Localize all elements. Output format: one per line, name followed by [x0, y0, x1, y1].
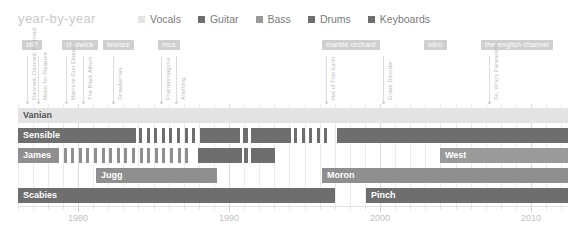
record-label-badge[interactable]: chiswick: [62, 40, 98, 50]
member-name-label: Jugg: [96, 168, 128, 183]
axis-tick: [154, 206, 155, 209]
record-label-badge[interactable]: mca: [158, 40, 180, 50]
timeline-bar-segment: [177, 128, 180, 143]
timeline-bar-segment: [154, 128, 157, 143]
record-label-badge[interactable]: marble orchard: [322, 40, 380, 50]
axis-tick: [138, 206, 139, 209]
legend-label: Keyboards: [380, 13, 430, 25]
annotation-layer: stiffchiswickbronzemcamarble orchardnitr…: [0, 40, 583, 106]
timeline-bar-segment: [317, 128, 320, 143]
member-name-label: James: [18, 148, 56, 163]
member-name-label: Sensible: [18, 128, 65, 143]
axis-tick: [501, 206, 502, 209]
axis-tick: [440, 206, 441, 209]
legend-label: Drums: [320, 13, 351, 25]
axis-tick: [486, 206, 487, 209]
album-title-label: The Black Album: [87, 57, 93, 100]
table-row[interactable]: Sensible: [0, 128, 583, 143]
axis-tick: [33, 206, 34, 209]
axis-tick: [274, 206, 275, 209]
axis-tick: [335, 206, 336, 209]
axis-tick-label: 1990: [219, 213, 239, 223]
plot-area: VanianSensibleJamesJuggMoronWestScabiesP…: [0, 104, 583, 208]
axis-tick: [471, 206, 472, 209]
x-axis: 1980199020002010: [0, 206, 583, 230]
axis-tick: [546, 206, 547, 209]
record-label-badge[interactable]: nitro: [424, 40, 447, 50]
timeline-bar-segment: [324, 128, 327, 143]
axis-tick: [410, 206, 411, 209]
album-title-label: Strawberries: [117, 67, 123, 100]
album-title-label: Not of This Earth: [330, 56, 336, 100]
album-title-label: So, Who's Paranoid?: [493, 46, 499, 100]
member-name-label: Vanian: [18, 108, 57, 123]
legend: VocalsGuitarBassDrumsKeyboards: [138, 12, 430, 26]
timeline-bar-segment: [337, 128, 568, 143]
axis-tick: [184, 206, 185, 209]
axis-tick: [531, 206, 532, 212]
timeline-bar-segment: [243, 128, 248, 143]
chart-header: year-by-year VocalsGuitarBassDrumsKeyboa…: [0, 8, 583, 30]
record-label-badge[interactable]: the english channel: [481, 40, 553, 50]
table-row[interactable]: West: [0, 148, 583, 163]
axis-tick: [289, 206, 290, 209]
axis-tick: [93, 206, 94, 209]
timeline-bar-segment: [294, 128, 297, 143]
legend-swatch-icon: [256, 16, 263, 23]
legend-swatch-icon: [368, 16, 375, 23]
album-title-label: Anything: [180, 77, 186, 100]
legend-item-keyboards[interactable]: Keyboards: [368, 13, 430, 25]
axis-tick: [561, 206, 562, 209]
axis-tick: [425, 206, 426, 209]
member-name-label: Moron: [322, 168, 360, 183]
axis-tick: [199, 206, 200, 209]
album-stem-line: [176, 56, 177, 102]
member-name-label: Pinch: [366, 188, 401, 203]
legend-item-vocals[interactable]: Vocals: [138, 13, 181, 25]
axis-tick: [78, 206, 79, 212]
legend-swatch-icon: [308, 16, 315, 23]
timeline-bar-segment: [251, 128, 291, 143]
axis-tick: [48, 206, 49, 209]
axis-tick-label: 1980: [68, 213, 88, 223]
table-row[interactable]: Moron: [0, 168, 583, 183]
album-stem-line: [27, 56, 28, 102]
record-label-badge[interactable]: bronze: [103, 40, 134, 50]
table-row[interactable]: Vanian: [0, 108, 583, 123]
timeline-bar-segment: [309, 128, 312, 143]
axis-tick-label: 2010: [521, 213, 541, 223]
timeline-bar-segment: [162, 128, 165, 143]
axis-tick: [123, 206, 124, 209]
album-stem-line: [66, 56, 67, 102]
legend-item-drums[interactable]: Drums: [308, 13, 351, 25]
axis-tick: [320, 206, 321, 209]
album-stem-line: [489, 56, 490, 102]
axis-tick: [214, 206, 215, 209]
album-stem-line: [383, 56, 384, 102]
album-title-label: Damned, Damned, Damned: [31, 28, 37, 100]
page-title: year-by-year: [18, 11, 96, 26]
axis-tick: [516, 206, 517, 209]
timeline-bar-segment: [200, 128, 240, 143]
timeline-bar-segment: [169, 128, 172, 143]
legend-item-bass[interactable]: Bass: [256, 13, 291, 25]
axis-tick: [229, 206, 230, 212]
album-title-label: Music for Pleasure: [42, 52, 48, 100]
table-row[interactable]: Pinch: [0, 188, 583, 203]
axis-tick: [259, 206, 260, 209]
legend-label: Vocals: [150, 13, 181, 25]
legend-label: Guitar: [210, 13, 239, 25]
timeline-bar-segment: [192, 128, 195, 143]
album-stem-line: [161, 56, 162, 102]
axis-tick: [169, 206, 170, 209]
timeline-bar-segment: [139, 128, 142, 143]
timeline-bar-segment: [18, 108, 568, 123]
axis-tick: [244, 206, 245, 209]
legend-item-guitar[interactable]: Guitar: [198, 13, 239, 25]
axis-tick: [350, 206, 351, 209]
axis-tick: [305, 206, 306, 209]
album-stem-line: [83, 56, 84, 102]
legend-label: Bass: [268, 13, 291, 25]
album-stem-line: [113, 56, 114, 102]
axis-tick: [18, 206, 19, 209]
